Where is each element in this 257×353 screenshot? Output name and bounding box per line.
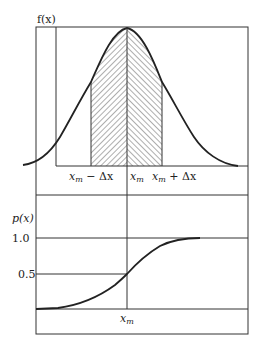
shaded-area-left <box>91 28 127 166</box>
label-xm-minus-dx: xm − Δx <box>69 170 114 184</box>
cumulative-panel: p(x) 1.0 0.5 xm <box>12 212 248 326</box>
probability-figure: f(x) xm − Δx xm xm + Δx p(x) 1.0 0.5 xm <box>0 0 257 353</box>
x-label-xm: xm <box>120 312 134 326</box>
y-tick-1-0: 1.0 <box>12 232 30 245</box>
y-tick-0-5: 0.5 <box>18 268 36 281</box>
label-xm-plus-dx: xm + Δx <box>152 170 197 184</box>
density-y-label: f(x) <box>37 13 56 26</box>
cumulative-y-label: p(x) <box>12 212 34 225</box>
density-panel: f(x) xm − Δx xm xm + Δx <box>23 13 248 184</box>
shaded-area-right <box>127 28 162 166</box>
label-xm: xm <box>130 170 144 184</box>
